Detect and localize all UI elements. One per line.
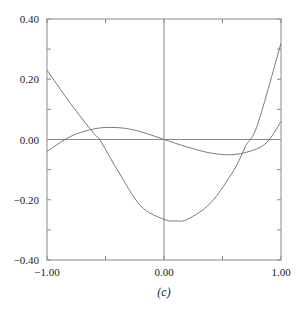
y-axis-tick-labels: −0.40−0.200.000.200.40: [14, 13, 40, 266]
y-tick-label: 0.00: [20, 134, 40, 146]
x-tick-label: 0.00: [154, 266, 174, 278]
x-tick-label: −1.00: [34, 266, 60, 278]
y-tick-label: 0.40: [20, 13, 40, 25]
y-tick-label: 0.20: [20, 73, 40, 85]
chart: −0.40−0.200.000.200.40 −1.000.001.00 (c): [0, 0, 303, 312]
y-tick-label: −0.20: [14, 194, 40, 206]
x-tick-label: 1.00: [271, 266, 291, 278]
y-tick-label: −0.40: [14, 254, 40, 266]
x-axis-tick-labels: −1.000.001.00: [34, 266, 291, 278]
figure-caption: (c): [157, 285, 170, 299]
